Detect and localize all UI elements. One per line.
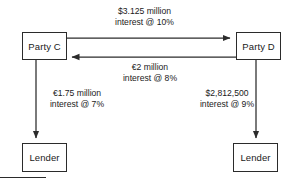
edge-label-d-to-lender: $2,812,500 interest @ 9% (186, 88, 268, 110)
swap-diagram: Party C Party D Lender Lender $3.125 mil… (0, 0, 287, 185)
edge-label-c-to-d: $3.125 million interest @ 10% (92, 6, 197, 28)
node-party-c: Party C (22, 32, 67, 60)
edge-label-c-to-d-amount: $3.125 million (92, 6, 197, 17)
node-party-c-label: Party C (28, 41, 60, 52)
node-lender-left-label: Lender (29, 152, 59, 163)
node-lender-left: Lender (22, 143, 67, 172)
edge-label-d-to-lender-interest: interest @ 9% (186, 99, 268, 110)
edge-label-c-to-lender-amount: €1.75 million (36, 88, 118, 99)
node-party-d: Party D (236, 32, 281, 60)
node-party-d-label: Party D (242, 41, 274, 52)
edge-label-d-to-c-interest: interest @ 8% (105, 73, 195, 84)
edge-label-d-to-c-amount: €2 million (105, 62, 195, 73)
edge-label-d-to-lender-amount: $2,812,500 (186, 88, 268, 99)
edge-label-c-to-lender: €1.75 million interest @ 7% (36, 88, 118, 110)
node-lender-right-label: Lender (240, 152, 270, 163)
edge-label-c-to-lender-interest: interest @ 7% (36, 99, 118, 110)
edge-label-d-to-c: €2 million interest @ 8% (105, 62, 195, 84)
footer-divider (0, 177, 46, 178)
node-lender-right: Lender (233, 143, 278, 172)
edge-label-c-to-d-interest: interest @ 10% (92, 17, 197, 28)
